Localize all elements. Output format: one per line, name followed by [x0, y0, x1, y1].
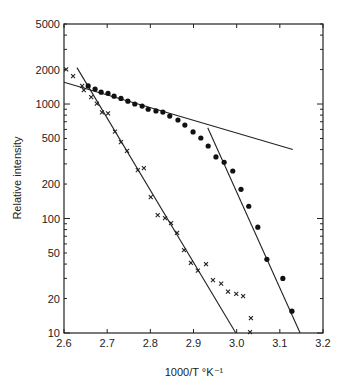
x-tick-label: 2.7	[100, 337, 115, 349]
cross-marker	[211, 278, 215, 282]
dot-marker	[111, 94, 116, 99]
cross-marker	[226, 290, 230, 294]
dot-marker	[146, 107, 151, 112]
x-tick-label: 3.0	[229, 337, 244, 349]
dot-marker	[153, 108, 158, 113]
cross-marker	[89, 95, 93, 99]
dot-marker	[198, 135, 203, 140]
cross-marker	[182, 248, 186, 252]
dot-marker	[280, 276, 285, 281]
dot-marker	[190, 129, 195, 134]
crosses-fit-line	[77, 68, 236, 333]
dot-marker	[238, 187, 243, 192]
dot-marker	[140, 103, 145, 108]
dot-marker	[246, 204, 251, 209]
dot-marker	[206, 143, 211, 148]
dot-marker	[92, 87, 97, 92]
cross-marker	[149, 195, 153, 199]
y-tick-label: 50	[48, 247, 60, 259]
cross-marker	[106, 111, 110, 115]
cross-marker	[234, 292, 238, 296]
x-tick-label: 3.1	[272, 337, 287, 349]
dot-marker	[230, 168, 235, 173]
dot-marker	[160, 110, 165, 115]
y-tick-label: 20	[48, 293, 60, 305]
dot-marker	[255, 225, 260, 230]
cross-marker	[142, 166, 146, 170]
y-tick-label: 10	[48, 327, 60, 339]
dot-marker	[167, 113, 172, 118]
dot-marker	[213, 154, 218, 159]
cross-marker	[156, 213, 160, 217]
dot-marker	[264, 257, 269, 262]
y-axis-ticks: 102050100200500100020005000	[36, 18, 323, 339]
y-tick-label: 1000	[36, 98, 60, 110]
x-axis-ticks: 2.62.72.82.93.03.13.2	[56, 24, 330, 349]
y-tick-label: 200	[42, 178, 60, 190]
x-tick-label: 3.2	[315, 337, 330, 349]
data-points	[64, 67, 294, 334]
dot-marker	[175, 117, 180, 122]
x-tick-label: 2.8	[143, 337, 158, 349]
y-axis-label: Relative intensity	[11, 136, 23, 220]
dot-marker	[125, 99, 130, 104]
cross-marker	[82, 88, 86, 92]
dot-marker	[118, 96, 123, 101]
dot-marker	[99, 90, 104, 95]
y-tick-label: 100	[42, 213, 60, 225]
dot-marker	[222, 160, 227, 165]
fit-lines	[64, 68, 300, 333]
dot-marker	[86, 83, 91, 88]
cross-marker	[71, 74, 75, 78]
dot-marker	[289, 309, 294, 314]
y-tick-label: 2000	[36, 64, 60, 76]
cross-marker	[189, 261, 193, 265]
dot-marker	[105, 91, 110, 96]
x-axis-label: 1000/T °K⁻¹	[165, 366, 224, 378]
dot-marker	[132, 101, 137, 106]
dots-steep-fit-line	[208, 128, 300, 333]
y-tick-label: 500	[42, 132, 60, 144]
cross-marker	[249, 316, 253, 320]
chart: 2.62.72.82.93.03.13.2 102050100200500100…	[0, 0, 345, 384]
cross-marker	[204, 262, 208, 266]
cross-marker	[219, 282, 223, 286]
dot-marker	[182, 122, 187, 127]
cross-marker	[241, 294, 245, 298]
y-tick-label: 5000	[36, 18, 60, 30]
dots-shallow-fit-line	[64, 82, 293, 149]
plot-frame	[64, 24, 323, 333]
plot-border	[64, 24, 323, 333]
x-tick-label: 2.9	[186, 337, 201, 349]
